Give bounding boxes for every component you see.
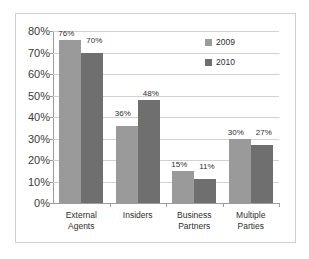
y-axis-tick-label: 40% — [16, 112, 50, 123]
category-label-line: Multiple — [223, 210, 280, 221]
x-axis-category-tick — [223, 203, 224, 207]
legend-swatch-icon — [205, 39, 212, 46]
bar-2009-external-agents[interactable] — [59, 40, 81, 203]
y-axis-tick-label: 70% — [16, 47, 50, 58]
bar-value-label: 27% — [256, 129, 272, 137]
legend-item-2009[interactable]: 2009 — [205, 38, 271, 47]
y-axis-tick-label: 30% — [16, 133, 50, 144]
bar-value-label: 36% — [115, 110, 131, 118]
legend-swatch-icon — [205, 59, 212, 66]
x-axis-category-tick — [110, 203, 111, 207]
bar-2010-multiple-parties[interactable] — [251, 145, 273, 203]
category-label-line: External — [53, 210, 110, 221]
chart-frame: 80%70%60%50%40%30%20%10%0% 76%70%36%48%1… — [15, 13, 296, 243]
chart-legend: 20092010 — [205, 38, 271, 78]
bar-value-label: 76% — [58, 30, 74, 38]
y-axis-tick-mark — [49, 53, 53, 54]
category-label-line: Partners — [166, 221, 223, 232]
category-label-line: Agents — [53, 221, 110, 232]
x-axis-category-label: MultipleParties — [223, 210, 280, 233]
y-axis-labels: 80%70%60%50%40%30%20%10%0% — [16, 14, 50, 242]
legend-label: 2010 — [216, 58, 235, 67]
bar-value-label: 30% — [228, 129, 244, 137]
bar-value-label: 48% — [143, 90, 159, 98]
y-axis-tick-mark — [49, 74, 53, 75]
y-axis-tick-label: 80% — [16, 26, 50, 37]
x-axis-category-tick — [166, 203, 167, 207]
y-axis-tick-mark — [49, 31, 53, 32]
y-axis-tick-mark — [49, 203, 53, 204]
x-axis-category-label: ExternalAgents — [53, 210, 110, 233]
x-axis-category-labels: ExternalAgentsInsidersBusinessPartnersMu… — [53, 210, 279, 242]
category-label-line: Insiders — [110, 210, 167, 221]
y-axis-tick-mark — [49, 139, 53, 140]
bar-2010-business-partners[interactable] — [194, 179, 216, 203]
bar-2009-insiders[interactable] — [116, 126, 138, 203]
bar-2010-external-agents[interactable] — [81, 53, 103, 204]
category-label-line: Parties — [223, 221, 280, 232]
bar-value-label: 11% — [199, 163, 214, 171]
bar-2010-insiders[interactable] — [138, 100, 160, 203]
y-axis-tick-label: 0% — [16, 198, 50, 209]
bar-group: 36%48% — [116, 31, 160, 203]
y-axis-tick-mark — [49, 96, 53, 97]
bar-2009-multiple-parties[interactable] — [229, 139, 251, 204]
bar-value-label: 70% — [86, 37, 102, 45]
legend-label: 2009 — [216, 38, 235, 47]
x-axis-category-tick — [279, 203, 280, 207]
x-axis-category-label: BusinessPartners — [166, 210, 223, 233]
y-axis-tick-mark — [49, 160, 53, 161]
x-axis-category-label: Insiders — [110, 210, 167, 221]
y-axis-tick-mark — [49, 182, 53, 183]
bar-group: 76%70% — [59, 31, 103, 203]
category-label-line: Business — [166, 210, 223, 221]
y-axis-tick-label: 20% — [16, 155, 50, 166]
bar-value-label: 15% — [171, 161, 187, 169]
y-axis-tick-mark — [49, 117, 53, 118]
y-axis-tick-label: 10% — [16, 176, 50, 187]
y-axis-tick-label: 60% — [16, 69, 50, 80]
legend-item-2010[interactable]: 2010 — [205, 58, 271, 67]
bar-2009-business-partners[interactable] — [172, 171, 194, 203]
y-axis-tick-label: 50% — [16, 90, 50, 101]
